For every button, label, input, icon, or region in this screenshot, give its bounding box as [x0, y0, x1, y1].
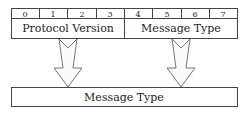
bit-label: 5 — [164, 10, 169, 19]
bit-label: 2 — [79, 10, 84, 19]
arrow-left-icon — [54, 39, 82, 87]
bit-label: 7 — [220, 10, 225, 19]
bit-label: 0 — [22, 10, 27, 19]
bottom-message-type-label: Message Type — [84, 91, 164, 104]
bit-label: 6 — [192, 10, 197, 19]
message-type-field: Message Type — [141, 22, 221, 35]
bit-row — [12, 9, 238, 19]
diagram-canvas: 0 1 2 3 4 5 6 7 Protocol Version Message… — [0, 0, 247, 116]
bit-label: 4 — [135, 10, 140, 19]
bit-label: 3 — [107, 10, 112, 19]
arrow-right-icon — [167, 39, 195, 87]
bit-label: 1 — [50, 10, 55, 19]
protocol-version-field: Protocol Version — [22, 22, 114, 35]
